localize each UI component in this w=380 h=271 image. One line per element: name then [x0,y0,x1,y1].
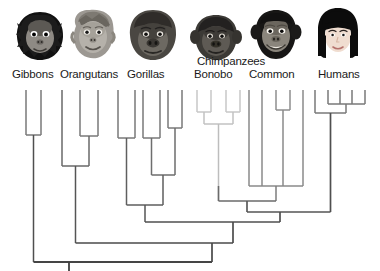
clade-common-inner-pair [276,90,290,110]
clade-gorillas-right-pair [168,90,182,128]
clade-bonobo-crown [204,112,233,124]
clade-gorillas-crown [127,138,164,205]
clade-gibbons [26,90,41,135]
clade-humans-comb [315,90,365,113]
branch-orangutans [62,90,89,166]
clade-bonobo-pair-right [226,90,240,112]
clade-gorillas-mid-pair [143,90,160,138]
clade-bonobo-pair-left [197,90,211,112]
node-chimpanzees [219,186,277,201]
cladogram-branches [0,0,380,271]
clade-gorillas-left-pair [118,90,135,138]
clade-gorillas-right-join [152,128,176,175]
clade-orangutans-inner [80,90,98,136]
phylogenetic-tree-figure: Chimpanzees Gibbons Orangutans Gorillas … [0,0,380,271]
